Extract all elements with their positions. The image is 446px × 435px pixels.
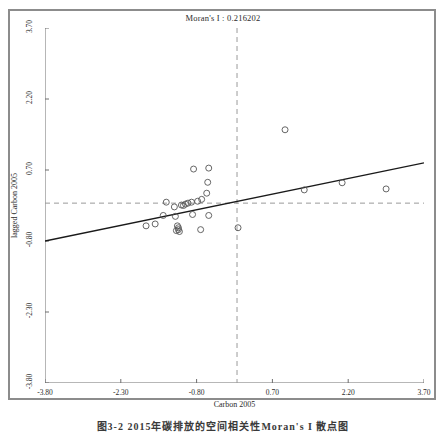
- x-tick-label: -2.30: [113, 388, 129, 397]
- scatter-point: [383, 186, 389, 192]
- moran-scatterplot-figure: Moran's I : 0.216202 -3.80-2.30-0.800.70…: [0, 0, 446, 435]
- regression-line: [45, 163, 424, 241]
- scatter-point: [206, 165, 212, 171]
- scatter-point: [160, 212, 166, 218]
- scatter-point: [282, 127, 288, 133]
- scatter-point: [206, 212, 212, 218]
- y-axis-label: lagged Carbon 2005: [10, 28, 22, 383]
- scatter-point: [205, 179, 211, 185]
- reference-lines: [45, 28, 424, 383]
- chart-title: Moran's I : 0.216202: [0, 13, 446, 23]
- x-tick-label: 3.70: [417, 388, 430, 397]
- scatter-point: [198, 227, 204, 233]
- scatter-point: [190, 211, 196, 217]
- tick-marks: [45, 28, 424, 383]
- scatter-point: [152, 221, 158, 227]
- x-tick-label: 0.70: [266, 388, 279, 397]
- scatter-point: [191, 166, 197, 172]
- scatter-point: [143, 223, 149, 229]
- plot-area: -3.80-2.30-0.800.702.203.70 -3.80-2.30-0…: [45, 28, 424, 383]
- scatter-point: [204, 190, 210, 196]
- x-tick-label: -0.80: [189, 388, 205, 397]
- scatter-point: [339, 180, 345, 186]
- x-axis-label: Carbon 2005: [45, 400, 424, 409]
- x-tick-label: 2.20: [342, 388, 355, 397]
- axis-lines: [45, 28, 424, 383]
- scatter-point: [163, 199, 169, 205]
- fit-line-segment: [45, 163, 424, 241]
- y-axis-label-wrap: lagged Carbon 2005: [22, 28, 34, 383]
- scatter-point: [171, 204, 177, 210]
- figure-caption: 图3-2 2015年碳排放的空间相关性Moran's I 散点图: [0, 418, 446, 433]
- scatter-canvas: [45, 28, 424, 383]
- x-tick-label: -3.80: [37, 388, 53, 397]
- data-points: [143, 127, 389, 235]
- scatter-point: [235, 225, 241, 231]
